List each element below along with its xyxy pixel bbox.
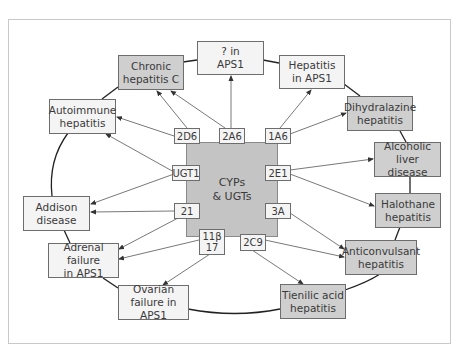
- enzyme-2d6: 2D6: [174, 128, 200, 144]
- cyps-ugts-center: CYPs & UGTs: [186, 142, 278, 237]
- disease-autoimmune-hepatitis: Autoimmune hepatitis: [49, 99, 116, 134]
- disease-ovarian-failure-aps1: Ovarian failure in APS1: [118, 285, 189, 320]
- enzyme-11b17: 11β 17: [199, 229, 225, 255]
- disease-dihydralazine-hepatitis: Dihydralazine hepatitis: [347, 96, 413, 131]
- disease-adrenal-failure-aps1: Adrenal failure in APS1: [48, 243, 119, 278]
- enzyme-3a: 3A: [265, 203, 291, 219]
- enzyme-1a6: 1A6: [265, 128, 291, 144]
- enzyme-21: 21: [174, 203, 200, 219]
- disease-tienilic-acid-hepatitis: Tienilic acid hepatitis: [280, 284, 346, 319]
- enzyme-2a6: 2A6: [219, 128, 245, 144]
- enzyme-2c9: 2C9: [240, 234, 266, 251]
- disease-unknown-aps1: ? in APS1: [197, 41, 264, 75]
- disease-alcoholic-liver: Alcoholic liver disease: [374, 142, 441, 177]
- disease-hepatitis-aps1: Hepatitis in APS1: [279, 55, 345, 89]
- enzyme-2e1: 2E1: [265, 165, 291, 181]
- disease-addison: Addison disease: [23, 196, 90, 231]
- enzyme-ugt1: UGT1: [172, 165, 200, 181]
- disease-halothane-hepatitis: Halothane hepatitis: [375, 193, 441, 228]
- disease-chronic-hepatitis-c: Chronic hepatitis C: [118, 55, 184, 90]
- disease-anticonvulsant-hepatitis: Anticonvulsant hepatitis: [345, 240, 417, 275]
